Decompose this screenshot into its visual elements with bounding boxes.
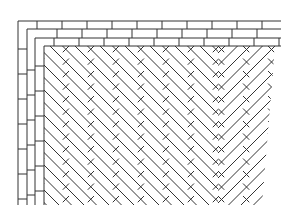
brick-border — [18, 21, 281, 205]
herringbone-field — [0, 0, 281, 221]
paving-diagram — [0, 0, 281, 221]
paving-pattern-drawing — [0, 0, 281, 221]
